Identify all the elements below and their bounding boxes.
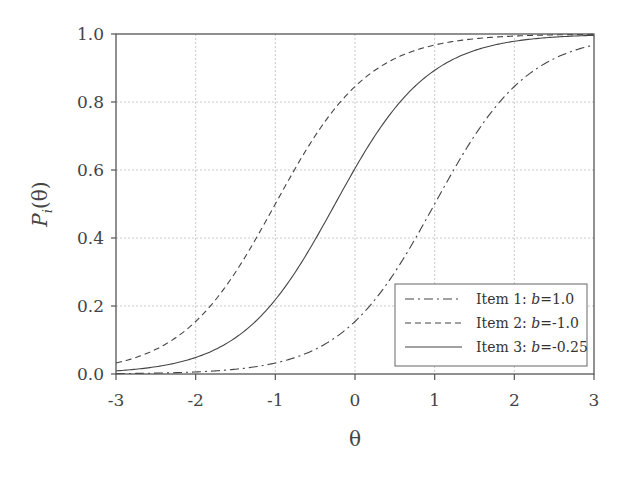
x-tick-label: 1	[429, 390, 440, 410]
x-axis-label: θ	[349, 427, 361, 451]
irt-chart: -3-2-101230.00.20.40.60.81.0 Item 1: b=1…	[0, 0, 624, 479]
legend-label: Item 3: b=-0.25	[476, 339, 588, 355]
legend-label: Item 2: b=-1.0	[476, 315, 579, 331]
x-tick-label: 3	[589, 390, 600, 410]
y-tick-label: 1.0	[77, 24, 104, 44]
legend-label: Item 1: b=1.0	[476, 291, 574, 307]
x-tick-label: -3	[108, 390, 125, 410]
x-tick-label: -1	[267, 390, 284, 410]
x-tick-label: 0	[350, 390, 361, 410]
svg-text:Pi(θ): Pi(θ)	[28, 181, 55, 227]
x-tick-label: 2	[509, 390, 520, 410]
y-tick-label: 0.0	[77, 364, 104, 384]
x-tick-label: -2	[187, 390, 204, 410]
y-tick-label: 0.2	[77, 296, 104, 316]
y-tick-label: 0.4	[77, 228, 104, 248]
y-tick-label: 0.6	[77, 160, 104, 180]
y-tick-label: 0.8	[77, 92, 104, 112]
y-axis-label: Pi(θ)	[28, 181, 55, 227]
legend: Item 1: b=1.0Item 2: b=-1.0Item 3: b=-0.…	[395, 284, 588, 366]
